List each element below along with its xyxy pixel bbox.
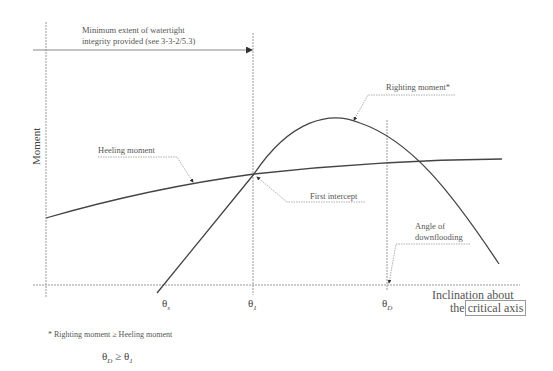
heeling-leader xyxy=(98,157,193,182)
theta-d-tick-label: θD xyxy=(382,297,392,312)
righting-moment-curve xyxy=(157,118,499,293)
theta-1-tick-label: θ1 xyxy=(248,297,257,312)
critical-axis-box: critical axis xyxy=(465,300,527,316)
righting-leader xyxy=(354,95,455,120)
downflooding-label-line2: downflooding xyxy=(415,232,463,243)
x-axis-label-the: the xyxy=(450,301,465,315)
righting-moment-label: Righting moment* xyxy=(386,82,450,93)
y-axis-label: Moment xyxy=(30,128,42,165)
heeling-moment-curve xyxy=(46,159,502,218)
x-axis-label: Inclination about thecritical axis xyxy=(432,289,526,315)
inequality: θD ≥ θ1 xyxy=(102,350,133,365)
theta-s-tick-label: θs xyxy=(162,297,170,312)
downflooding-label-line1: Angle of xyxy=(415,221,445,232)
footnote: * Righting moment ≥ Heeling moment xyxy=(48,330,172,339)
downflooding-leader xyxy=(389,244,470,283)
watertight-label-line1: Minimum extent of watertight xyxy=(82,25,185,36)
first-intercept-label: First intercept xyxy=(310,191,357,202)
heeling-moment-label: Heeling moment xyxy=(98,145,155,156)
watertight-label-line2: integrity provided (see 3-3-2/5.3) xyxy=(82,36,195,47)
